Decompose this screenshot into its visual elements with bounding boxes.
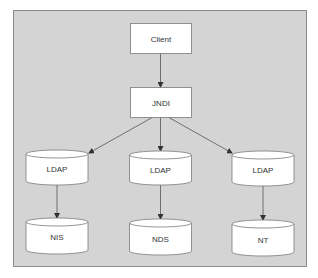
node-label: NIS (50, 233, 63, 242)
node-client: Client (131, 24, 192, 54)
node-label: NDS (152, 235, 169, 244)
node-label: LDAP (150, 166, 171, 175)
node-label: JNDI (152, 99, 170, 108)
node-label: NT (258, 236, 269, 245)
node-label: LDAP (47, 165, 68, 174)
jndi-architecture-diagram: Client JNDI LDAP LDAP LDAP NIS NDS (0, 0, 318, 278)
node-nt: NT (232, 220, 294, 256)
node-label: Client (151, 35, 172, 44)
node-nis: NIS (26, 218, 88, 254)
node-ldap-left: LDAP (26, 150, 88, 185)
node-label: LDAP (253, 166, 274, 175)
node-ldap-center: LDAP (130, 151, 192, 185)
node-jndi: JNDI (131, 88, 192, 118)
node-nds: NDS (130, 219, 192, 255)
node-ldap-right: LDAP (232, 151, 294, 186)
